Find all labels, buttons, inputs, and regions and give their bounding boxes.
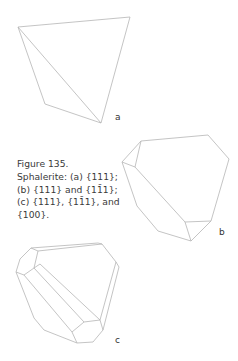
caption-line: (c) {111}, {11̄1}, and xyxy=(17,196,127,209)
caption-line: {100}. xyxy=(17,209,127,222)
crystal-c xyxy=(16,243,119,343)
figure-number: Figure 135. xyxy=(17,158,127,171)
panel-label-a: a xyxy=(115,112,121,122)
caption-line: (b) {111} and {11̄1}; xyxy=(17,184,127,197)
caption-line: Sphalerite: (a) {111}; xyxy=(17,171,127,184)
panel-label-b: b xyxy=(219,227,225,237)
panel-label-c: c xyxy=(115,335,120,345)
crystal-b xyxy=(122,135,229,241)
crystal-a xyxy=(18,17,130,123)
figure-caption: Figure 135. Sphalerite: (a) {111}; (b) {… xyxy=(17,158,127,222)
